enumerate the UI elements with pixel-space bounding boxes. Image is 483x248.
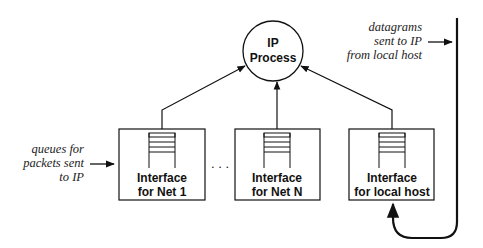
interface-local-host-label-line1: Interface <box>367 171 417 185</box>
ip-process-node: IP Process <box>243 21 303 81</box>
arrow-localhost-to-ip <box>301 66 392 133</box>
queues-annotation-line1: queues for <box>32 142 85 156</box>
datagrams-annotation-line1: datagrams <box>369 20 423 34</box>
ip-process-label-line1: IP <box>267 36 278 50</box>
interface-net-1: Interface for Net 1 <box>119 129 205 200</box>
ip-process-label-line2: Process <box>250 51 297 65</box>
interface-local-host: Interface for local host <box>349 129 434 200</box>
ip-process-diagram: IP Process Interface for Net 1 . . . <box>0 0 483 248</box>
interface-net-n-label-line2: for Net N <box>252 185 303 199</box>
datagrams-annotation: datagrams sent to IP from local host <box>347 20 452 62</box>
interface-local-host-label-line2: for local host <box>354 185 429 199</box>
queues-annotation-line3: to IP <box>59 170 84 184</box>
interface-net-n-label-line1: Interface <box>252 171 302 185</box>
interface-net-1-label-line2: for Net 1 <box>138 185 187 199</box>
interface-net-n: Interface for Net N <box>235 129 320 200</box>
datagrams-annotation-line2: sent to IP <box>374 34 422 48</box>
datagrams-annotation-line3: from local host <box>347 48 423 62</box>
arrow-net1-to-ip <box>162 66 245 133</box>
queues-annotation-line2: packets sent <box>22 156 84 170</box>
queues-annotation: queues for packets sent to IP <box>22 142 114 184</box>
interface-net-1-label-line1: Interface <box>137 171 187 185</box>
ellipsis: . . . <box>211 156 229 171</box>
